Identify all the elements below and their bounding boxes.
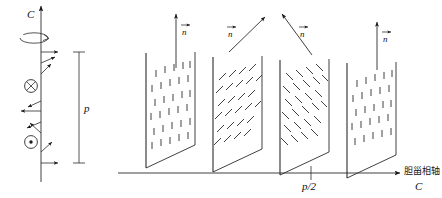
into-page-symbol (25, 80, 38, 93)
rotation-ellipse-icon (20, 33, 49, 43)
hatch-backslash-3 (281, 64, 328, 145)
n-label-1: n (181, 25, 190, 37)
slab-panel-2 (213, 17, 265, 172)
svg-text:n: n (182, 27, 187, 37)
hatch-slash-2 (214, 64, 262, 145)
hatch-vertical-4 (352, 70, 392, 145)
n-vector-arrow-2 (229, 17, 265, 52)
left-helix-group (20, 6, 85, 182)
n-vector-arrow-3 (282, 14, 312, 55)
slab-panel-1 (146, 14, 195, 168)
cholesteric-helix-figure: C p p/2 胆甾相轴 C n n n n (0, 0, 442, 198)
svg-text:n: n (228, 29, 233, 39)
svg-text:n: n (300, 29, 305, 39)
figure-canvas: C p p/2 胆甾相轴 C n n n n (0, 0, 442, 198)
right-diagram-group (118, 14, 400, 180)
hatch-vertical-1 (151, 61, 190, 149)
out-of-page-symbol (25, 136, 38, 149)
slab-panel-4 (347, 22, 396, 178)
right-axis-label: C (415, 180, 423, 192)
left-axis-label: C (27, 8, 35, 20)
n-label-2: n (227, 27, 236, 39)
half-pitch-label: p/2 (301, 180, 317, 192)
n-label-3: n (299, 27, 308, 39)
svg-text:n: n (383, 34, 388, 44)
pitch-label: p (83, 102, 90, 114)
cjk-axis-label: 胆甾相轴 (404, 165, 440, 176)
n-label-4: n (382, 32, 391, 44)
slab-panel-3 (280, 14, 329, 175)
